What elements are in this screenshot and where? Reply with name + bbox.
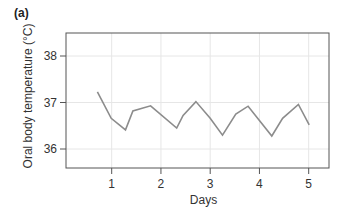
plot-frame <box>66 33 329 168</box>
y-tick-label: 36 <box>44 142 58 156</box>
y-axis-ticks: 363738 <box>44 49 66 156</box>
x-tick-label: 5 <box>305 177 312 191</box>
x-tick-label: 1 <box>108 177 115 191</box>
x-axis-title: Days <box>190 193 217 207</box>
y-tick-label: 37 <box>44 96 58 110</box>
x-tick-label: 3 <box>207 177 214 191</box>
y-axis-title: Oral body temperature (°C) <box>21 24 35 169</box>
x-tick-label: 4 <box>256 177 263 191</box>
grid-lines <box>66 33 329 168</box>
y-tick-label: 38 <box>44 49 58 63</box>
line-chart: 363738 12345 Days Oral body temperature … <box>0 0 344 218</box>
x-tick-label: 2 <box>158 177 165 191</box>
temperature-line <box>97 92 309 136</box>
x-axis-ticks: 12345 <box>108 168 312 191</box>
